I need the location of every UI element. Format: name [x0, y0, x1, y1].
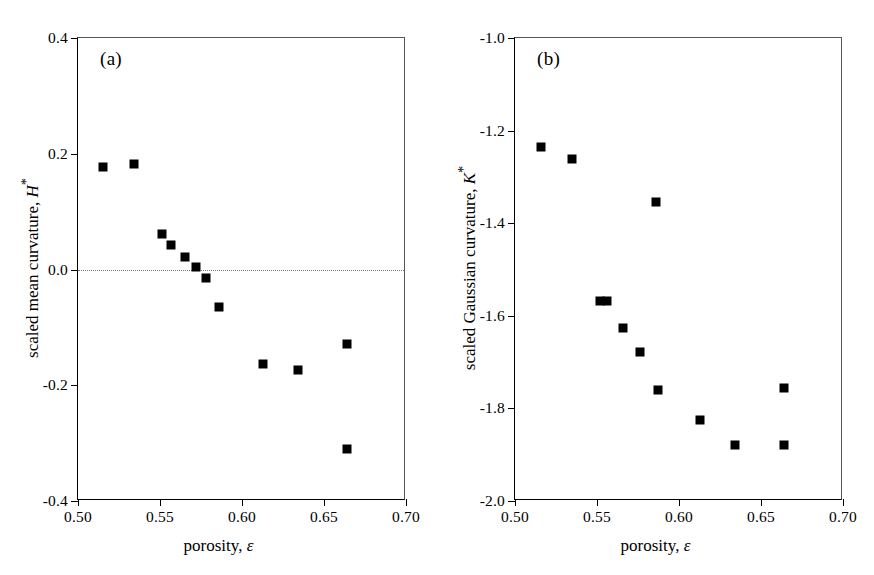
x-tick-a-3	[324, 499, 325, 506]
x-axis-title-text-b: porosity,	[621, 536, 680, 555]
y-tick-a-2	[71, 270, 78, 271]
y-axis-title-superscript-a: *	[18, 178, 34, 185]
x-tick-b-2	[679, 499, 680, 506]
y-axis-title-b: scaled Gaussian curvature, K*	[455, 166, 480, 370]
zero-reference-line-a	[78, 270, 404, 271]
y-axis-title-text-a: scaled mean curvature,	[23, 202, 42, 358]
data-point-a-4	[180, 252, 189, 261]
x-tick-label-b-3: 0.65	[747, 508, 775, 526]
y-tick-label-b-2: -1.4	[480, 214, 505, 232]
data-point-b-5	[635, 348, 644, 357]
figure-canvas: 0.40.20.0-0.2-0.4 0.500.550.600.650.70 (…	[0, 0, 874, 575]
x-tick-a-2	[242, 499, 243, 506]
data-point-a-7	[215, 303, 224, 312]
x-tick-label-a-3: 0.65	[310, 508, 338, 526]
x-tick-b-4	[843, 499, 844, 506]
plot-area-b: -1.0-1.2-1.4-1.6-1.8-2.0 0.500.550.600.6…	[514, 37, 842, 500]
y-tick-b-3	[508, 316, 515, 317]
y-tick-b-4	[508, 408, 515, 409]
y-tick-a-3	[71, 385, 78, 386]
y-tick-label-a-0: 0.4	[48, 29, 68, 47]
data-point-b-9	[730, 440, 739, 449]
x-tick-b-1	[597, 499, 598, 506]
data-point-a-9	[293, 366, 302, 375]
x-tick-label-b-4: 0.70	[829, 508, 857, 526]
data-point-b-10	[779, 384, 788, 393]
y-tick-b-0	[508, 38, 515, 39]
panel-b: -1.0-1.2-1.4-1.6-1.8-2.0 0.500.550.600.6…	[437, 0, 874, 575]
x-tick-a-0	[78, 499, 79, 506]
y-tick-label-a-3: -0.2	[43, 376, 68, 394]
x-tick-a-4	[406, 499, 407, 506]
data-point-b-0	[537, 142, 546, 151]
y-axis-title-superscript-b: *	[455, 166, 471, 173]
x-tick-label-a-0: 0.50	[64, 508, 92, 526]
data-point-a-3	[167, 240, 176, 249]
panel-label-a: (a)	[100, 48, 122, 70]
y-tick-label-b-1: -1.2	[480, 122, 505, 140]
data-point-b-6	[652, 198, 661, 207]
y-tick-a-4	[71, 501, 78, 502]
y-tick-a-1	[71, 154, 78, 155]
y-tick-a-0	[71, 38, 78, 39]
data-point-a-5	[192, 262, 201, 271]
data-point-a-6	[201, 273, 210, 282]
y-tick-label-b-3: -1.6	[480, 307, 505, 325]
x-axis-title-a: porosity, ε	[0, 536, 437, 556]
x-tick-a-1	[160, 499, 161, 506]
data-point-b-7	[653, 385, 662, 394]
data-point-b-4	[619, 324, 628, 333]
y-axis-title-a: scaled mean curvature, H*	[18, 178, 43, 358]
y-tick-b-1	[508, 131, 515, 132]
x-tick-label-a-1: 0.55	[146, 508, 174, 526]
y-tick-label-a-2: 0.0	[48, 261, 68, 279]
x-tick-label-b-0: 0.50	[501, 508, 529, 526]
y-axis-title-symbol-b: K	[460, 173, 479, 184]
data-point-a-1	[129, 160, 138, 169]
data-point-b-1	[568, 155, 577, 164]
y-axis-title-symbol-a: H	[23, 185, 42, 197]
x-tick-label-b-2: 0.60	[665, 508, 693, 526]
y-tick-label-b-4: -1.8	[480, 399, 505, 417]
data-point-a-10	[342, 340, 351, 349]
x-axis-title-symbol-b: ε	[684, 536, 691, 555]
x-tick-label-a-4: 0.70	[392, 508, 420, 526]
y-axis-title-text-b: scaled Gaussian curvature,	[460, 188, 479, 370]
plot-area-a: 0.40.20.0-0.2-0.4 0.500.550.600.650.70	[77, 37, 405, 500]
x-tick-b-3	[761, 499, 762, 506]
data-point-a-11	[342, 445, 351, 454]
data-point-a-8	[259, 359, 268, 368]
y-tick-b-5	[508, 501, 515, 502]
data-point-a-0	[98, 163, 107, 172]
x-tick-b-0	[515, 499, 516, 506]
x-axis-title-symbol-a: ε	[247, 536, 254, 555]
x-tick-label-b-1: 0.55	[583, 508, 611, 526]
y-tick-b-2	[508, 223, 515, 224]
data-point-b-11	[779, 441, 788, 450]
y-tick-label-b-0: -1.0	[480, 29, 505, 47]
x-axis-title-text-a: porosity,	[184, 536, 243, 555]
y-tick-label-a-1: 0.2	[48, 145, 68, 163]
data-point-a-2	[157, 230, 166, 239]
panel-label-b: (b)	[537, 48, 560, 70]
panel-a: 0.40.20.0-0.2-0.4 0.500.550.600.650.70 (…	[0, 0, 437, 575]
x-tick-label-a-2: 0.60	[228, 508, 256, 526]
data-point-b-8	[696, 415, 705, 424]
data-point-b-3	[602, 296, 611, 305]
x-axis-title-b: porosity, ε	[437, 536, 874, 556]
